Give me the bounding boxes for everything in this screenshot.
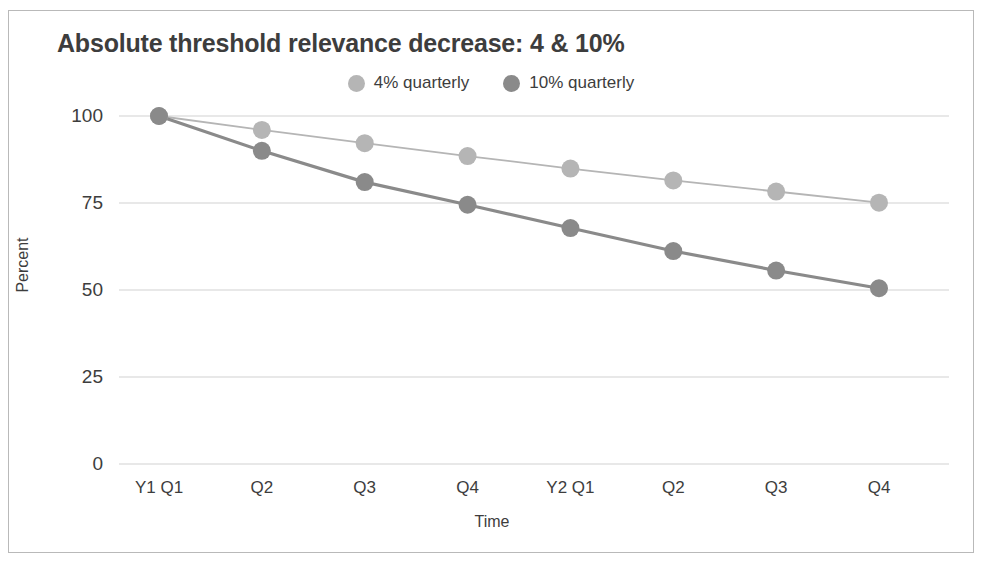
y-axis-title: Percent [14, 237, 32, 292]
data-point-marker[interactable] [253, 121, 271, 139]
data-point-marker[interactable] [664, 242, 682, 260]
x-tick-label: Q3 [721, 478, 831, 498]
x-tick-label: Q2 [618, 478, 728, 498]
data-point-marker[interactable] [767, 183, 785, 201]
data-point-marker[interactable] [253, 142, 271, 160]
x-tick-label: Q4 [824, 478, 934, 498]
y-tick-label: 50 [43, 279, 103, 301]
x-tick-label: Y2 Q1 [515, 478, 625, 498]
data-point-marker[interactable] [870, 279, 888, 297]
y-tick-label: 100 [43, 105, 103, 127]
y-tick-label: 75 [43, 192, 103, 214]
x-tick-label: Q4 [413, 478, 523, 498]
x-tick-label: Q3 [310, 478, 420, 498]
data-point-marker[interactable] [150, 107, 168, 125]
x-tick-label: Y1 Q1 [104, 478, 214, 498]
data-point-marker[interactable] [459, 147, 477, 165]
data-point-marker[interactable] [767, 262, 785, 280]
data-point-marker[interactable] [356, 134, 374, 152]
data-point-marker[interactable] [870, 194, 888, 212]
data-point-marker[interactable] [459, 196, 477, 214]
data-point-marker[interactable] [561, 219, 579, 237]
chart-canvas [9, 11, 975, 554]
y-tick-label: 25 [43, 366, 103, 388]
x-tick-label: Q2 [207, 478, 317, 498]
data-point-marker[interactable] [561, 160, 579, 178]
series-line [159, 116, 879, 288]
plot-area: 0255075100Y1 Q1Q2Q3Q4Y2 Q1Q2Q3Q4 Percent… [9, 11, 975, 554]
data-point-marker[interactable] [664, 171, 682, 189]
chart-figure: Absolute threshold relevance decrease: 4… [8, 10, 974, 553]
y-tick-label: 0 [43, 453, 103, 475]
x-axis-title: Time [9, 513, 975, 531]
data-point-marker[interactable] [356, 173, 374, 191]
